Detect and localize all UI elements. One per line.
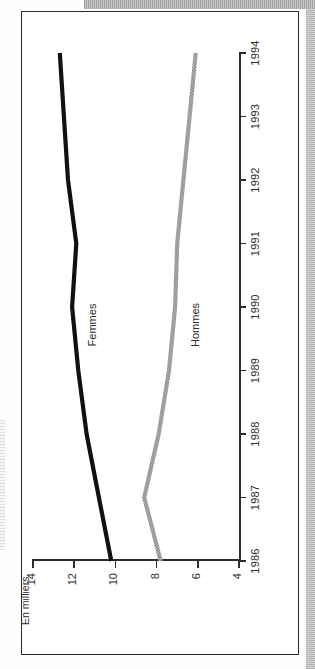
scan-artifact-right-band <box>306 9 315 669</box>
plot-area: En milliers 1986198719881989199019911992… <box>21 11 297 653</box>
scan-artifact-left-edge <box>0 420 5 550</box>
series-line-hommes <box>144 53 196 561</box>
data-series-lines <box>21 11 297 653</box>
scanned-page: En milliers 1986198719881989199019911992… <box>0 0 315 669</box>
series-label-hommes: Hommes <box>189 303 201 347</box>
scan-artifact-top-band <box>84 0 315 9</box>
rotated-chart-viewport: En milliers 1986198719881989199019911992… <box>21 11 297 653</box>
chart-stage: En milliers 1986198719881989199019911992… <box>21 11 297 653</box>
series-label-femmes: Femmes <box>86 304 98 347</box>
